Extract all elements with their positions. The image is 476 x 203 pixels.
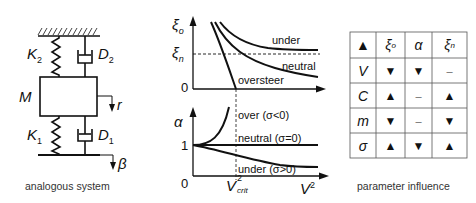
arrow-down-icon: ▼	[432, 108, 467, 133]
parameter-influence-caption: parameter influence	[357, 180, 450, 192]
damper-d1-label: D1	[98, 126, 114, 146]
upper-y-label: ξo	[172, 16, 184, 36]
lower-y-arrow-icon	[190, 107, 197, 117]
header-alpha: α	[405, 32, 432, 58]
curve-oversteer	[211, 22, 236, 89]
arrow-up-icon: ▲	[432, 133, 467, 158]
label-over-sigma: over (σ<0)	[238, 109, 289, 121]
xi-n-tick-label: ξn	[172, 44, 184, 64]
arrow-up-icon: ▲	[350, 32, 376, 58]
arrow-down-icon: ▼	[405, 58, 432, 83]
upper-y-arrow-icon	[190, 16, 197, 26]
lower-one-label: 1	[181, 138, 188, 153]
label-neutral-sigma: neutral (σ=0)	[238, 132, 301, 144]
lower-x-arrow-icon	[319, 173, 329, 180]
label-under-sigma: under (σ>0)	[238, 163, 296, 175]
arrow-down-icon: ▼	[376, 58, 405, 83]
header-xi-n: ξn	[432, 32, 467, 58]
arrow-down-icon: ▼	[405, 133, 432, 158]
ceiling-hatch	[38, 28, 100, 36]
arrow-down-icon: ▼	[376, 108, 405, 133]
param-m: m	[350, 108, 376, 133]
analogous-system-caption: analogous system	[25, 180, 110, 192]
output-r-label: r	[117, 97, 122, 113]
input-beta-label: β	[118, 155, 127, 172]
dash-icon: –	[405, 108, 432, 133]
output-r-arrow	[97, 96, 115, 112]
curve-under	[220, 22, 318, 50]
spring-k1-label: K1	[27, 126, 42, 146]
dash-icon: –	[432, 58, 467, 83]
arrow-up-icon: ▲	[432, 83, 467, 108]
curve-over	[193, 107, 229, 145]
damper-d2	[78, 36, 92, 77]
param-c: C	[350, 83, 376, 108]
spring-k2-label: K2	[27, 45, 42, 65]
param-v: V	[350, 58, 376, 83]
mass-label: M	[19, 88, 32, 105]
parameter-table-grid: ▲ ξo α ξn V ▼ ▼ – C ▲ – ▲ m ▼ – ▼ σ ▲ ▼ …	[350, 32, 467, 158]
header-xi-o: ξo	[376, 32, 405, 58]
label-neutral: neutral	[282, 60, 316, 72]
arrow-up-icon: ▲	[376, 133, 405, 158]
input-beta-arrow	[100, 155, 116, 170]
dash-icon: –	[405, 83, 432, 108]
spring-k1	[52, 116, 60, 155]
damper-d2-label: D2	[98, 45, 114, 65]
v-crit-tick-label: V2crit	[226, 178, 236, 193]
spring-k2	[52, 36, 60, 77]
label-oversteer: oversteer	[238, 74, 284, 86]
arrow-up-icon: ▲	[376, 83, 405, 108]
upper-x-arrow-icon	[316, 86, 326, 93]
x-axis-label: V2	[300, 178, 315, 196]
label-under: under	[272, 34, 300, 46]
mass-block	[40, 77, 97, 116]
lower-zero-label: 0	[181, 176, 188, 191]
param-sigma: σ	[350, 133, 376, 158]
lower-y-label: α	[174, 113, 183, 130]
damper-d1	[78, 116, 92, 155]
upper-zero-label: 0	[181, 80, 188, 95]
